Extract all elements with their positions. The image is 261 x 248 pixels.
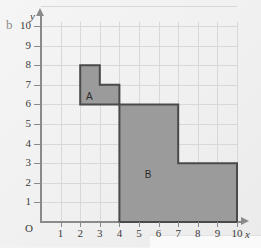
y-axis-tick-label: 3 [9, 156, 31, 168]
y-axis-tick-label: 9 [9, 39, 31, 51]
y-axis-tick [34, 26, 40, 27]
x-axis-tick-label: 1 [52, 227, 70, 239]
y-axis-tick-label: 10 [9, 19, 31, 31]
y-axis-tick [34, 144, 40, 145]
y-axis-tick [34, 202, 40, 203]
y-axis-tick [34, 124, 40, 125]
y-axis-tick-label: 6 [9, 97, 31, 109]
shape-b-label: B [145, 169, 152, 180]
y-axis-tick-label: 1 [9, 195, 31, 207]
shape-b-polygon [119, 104, 237, 222]
shape-a-label: A [86, 91, 93, 102]
y-axis-tick-label: 8 [9, 58, 31, 70]
y-axis-tick [34, 104, 40, 105]
x-axis-tick-label: 7 [169, 227, 187, 239]
x-axis-tick-label: 6 [150, 227, 168, 239]
x-axis-tick-label: 9 [208, 227, 226, 239]
y-axis-tick [34, 163, 40, 164]
x-axis-tick-label: 8 [189, 227, 207, 239]
x-axis-tick-label: 3 [91, 227, 109, 239]
y-axis-tick [34, 65, 40, 66]
y-axis-tick-label: 5 [9, 117, 31, 129]
y-axis-tick-label: 7 [9, 78, 31, 90]
x-axis-tick-label: 4 [110, 227, 128, 239]
y-axis-tick [34, 85, 40, 86]
y-axis-tick [34, 183, 40, 184]
x-axis-tick-label: 10 [228, 227, 246, 239]
y-axis-tick-label: 2 [9, 176, 31, 188]
y-axis-tick [34, 46, 40, 47]
x-axis-tick-label: 5 [130, 227, 148, 239]
x-axis-tick-label: 2 [71, 227, 89, 239]
y-axis-tick-label: 4 [9, 137, 31, 149]
